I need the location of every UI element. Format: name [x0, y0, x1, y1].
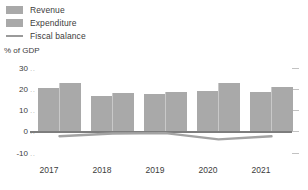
- right-tick-minus10: [292, 153, 299, 154]
- bar-swatch-icon: [6, 6, 23, 14]
- line-swatch-icon: [6, 32, 23, 40]
- y-tick-10: 10: [19, 106, 30, 115]
- right-tick-20: [292, 89, 299, 90]
- x-tick-2021: 2021: [231, 165, 291, 175]
- x-tick-2018: 2018: [72, 165, 132, 175]
- y-tick-20: 20: [19, 85, 30, 94]
- fiscal-balance-line: [30, 60, 292, 150]
- x-tick-2017: 2017: [19, 165, 79, 175]
- chart-legend: Revenue Expenditure Fiscal balance: [6, 3, 86, 42]
- bar-swatch-icon: [6, 19, 23, 27]
- legend-label-expenditure: Expenditure: [30, 18, 76, 28]
- right-tick-10: [292, 110, 299, 111]
- y-axis-title: % of GDP: [4, 46, 40, 55]
- y-tick-minus10: -10: [16, 149, 30, 158]
- right-tick-0: [292, 131, 299, 132]
- y-tick-30: 30: [19, 64, 30, 73]
- legend-item-fiscal-balance: Fiscal balance: [6, 29, 86, 42]
- chart-container: Revenue Expenditure Fiscal balance % of …: [0, 0, 308, 190]
- legend-label-revenue: Revenue: [30, 5, 65, 15]
- legend-item-revenue: Revenue: [6, 3, 86, 16]
- x-tick-2020: 2020: [178, 165, 238, 175]
- x-tick-2019: 2019: [125, 165, 185, 175]
- legend-label-fiscal-balance: Fiscal balance: [30, 31, 86, 41]
- right-tick-30: [292, 68, 299, 69]
- legend-item-expenditure: Expenditure: [6, 16, 86, 29]
